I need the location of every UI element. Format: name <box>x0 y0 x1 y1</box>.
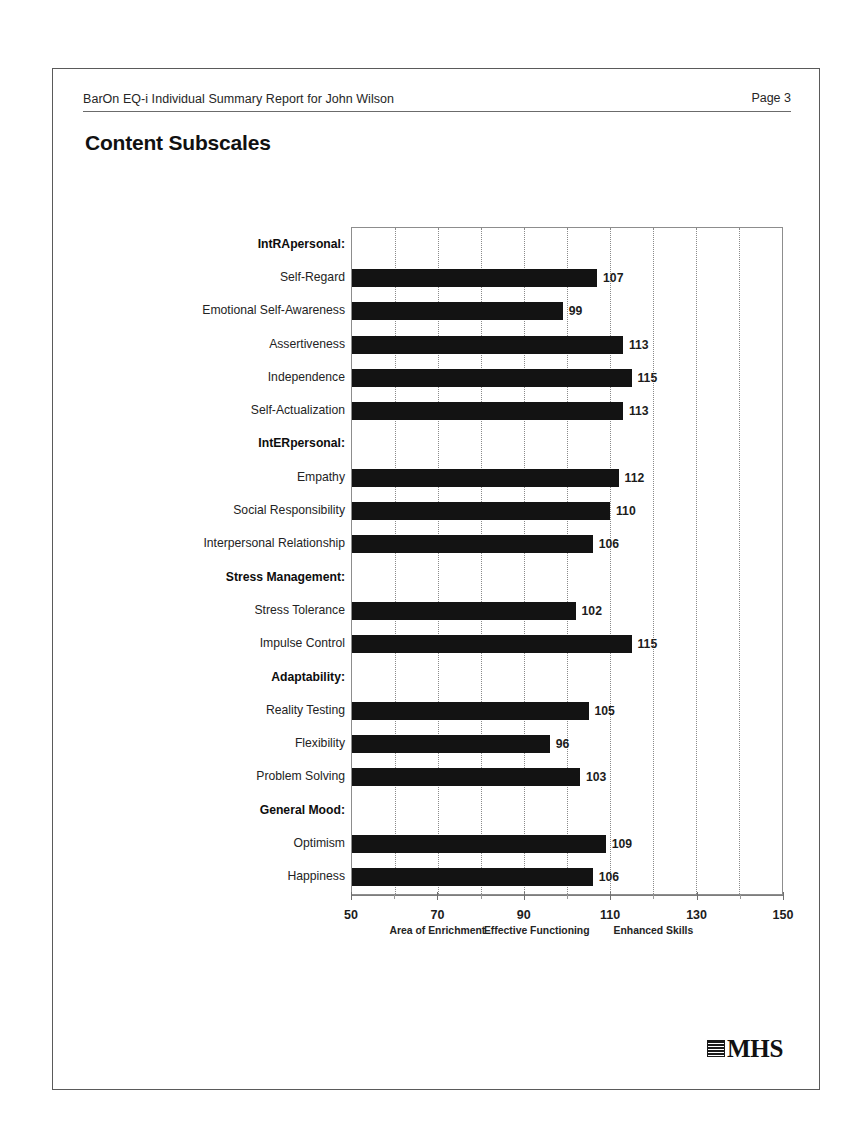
category-label: Problem Solving <box>93 760 351 793</box>
axis-tick-label: 90 <box>517 908 531 922</box>
chart-row: 110 <box>352 494 782 527</box>
axis-zone-label: Enhanced Skills <box>614 925 694 936</box>
category-group-label: Adaptability: <box>93 660 351 693</box>
bar-value-label: 106 <box>599 537 619 551</box>
page-number-label: Page 3 <box>751 91 791 106</box>
bar: 106 <box>352 868 593 886</box>
chart-row: 115 <box>352 628 782 661</box>
chart-row: 96 <box>352 727 782 760</box>
axis-tick-minor <box>653 895 654 899</box>
mhs-logo-mark-icon <box>707 1040 725 1057</box>
bar-value-label: 115 <box>638 637 658 651</box>
axis-zone-label: Effective Functioning <box>484 925 590 936</box>
category-label: Optimism <box>93 826 351 859</box>
bar: 113 <box>352 402 623 420</box>
mhs-logo: MHS <box>707 1036 783 1061</box>
bar: 105 <box>352 702 589 720</box>
page-running-header: BarOn EQ-i Individual Summary Report for… <box>83 91 791 112</box>
chart-row <box>352 428 782 461</box>
bar: 110 <box>352 502 610 520</box>
category-group-label: IntRApersonal: <box>93 227 351 260</box>
x-axis-line <box>351 895 783 905</box>
chart-row: 113 <box>352 328 782 361</box>
bar: 103 <box>352 768 580 786</box>
category-label: Empathy <box>93 460 351 493</box>
axis-tick-minor <box>481 895 482 899</box>
axis-tick-major <box>783 892 784 900</box>
bar-value-label: 113 <box>629 404 649 418</box>
axis-tick-label: 50 <box>344 908 358 922</box>
chart-row: 106 <box>352 528 782 561</box>
plot-area: 1079911311511311211010610211510596103109… <box>351 227 783 895</box>
bar: 96 <box>352 735 550 753</box>
category-group-label: IntERpersonal: <box>93 427 351 460</box>
bar-value-label: 96 <box>556 737 570 751</box>
bar-value-label: 99 <box>569 304 583 318</box>
bar-value-label: 115 <box>638 371 658 385</box>
chart-row: 107 <box>352 261 782 294</box>
axis-tick-label: 130 <box>686 908 707 922</box>
bar: 115 <box>352 635 632 653</box>
bar-value-label: 105 <box>595 704 615 718</box>
chart-body: IntRApersonal:Self-RegardEmotional Self-… <box>93 227 783 895</box>
x-axis-zone-labels: Area of EnrichmentEffective FunctioningE… <box>351 925 783 943</box>
chart-row: 106 <box>352 861 782 894</box>
bar-value-label: 106 <box>599 870 619 884</box>
bar-value-label: 102 <box>582 604 602 618</box>
bar: 109 <box>352 835 606 853</box>
bar-value-label: 110 <box>616 504 636 518</box>
bar: 115 <box>352 369 632 387</box>
chart-row: 112 <box>352 461 782 494</box>
category-label: Self-Regard <box>93 260 351 293</box>
category-label: Interpersonal Relationship <box>93 527 351 560</box>
category-group-label: Stress Management: <box>93 560 351 593</box>
axis-tick-minor <box>740 895 741 899</box>
category-label: Stress Tolerance <box>93 593 351 626</box>
bar-value-label: 107 <box>603 271 623 285</box>
chart-row: 113 <box>352 394 782 427</box>
axis-tick-label: 150 <box>773 908 794 922</box>
bar-value-label: 103 <box>586 770 606 784</box>
chart-row <box>352 228 782 261</box>
chart-row: 102 <box>352 594 782 627</box>
axis-tick-label: 110 <box>600 908 620 922</box>
bar-rows: 1079911311511311211010610211510596103109… <box>352 228 782 894</box>
chart-row <box>352 561 782 594</box>
bar: 112 <box>352 469 619 487</box>
category-label: Happiness <box>93 860 351 893</box>
mhs-logo-text: MHS <box>727 1036 783 1061</box>
chart-row <box>352 794 782 827</box>
bar: 102 <box>352 602 576 620</box>
chart-row: 103 <box>352 761 782 794</box>
bar: 99 <box>352 302 563 320</box>
category-axis-labels: IntRApersonal:Self-RegardEmotional Self-… <box>93 227 351 895</box>
category-label: Independence <box>93 360 351 393</box>
category-label: Flexibility <box>93 726 351 759</box>
content-subscales-chart: IntRApersonal:Self-RegardEmotional Self-… <box>93 227 783 943</box>
category-label: Reality Testing <box>93 693 351 726</box>
axis-tick-minor <box>567 895 568 899</box>
report-header-title: BarOn EQ-i Individual Summary Report for… <box>83 92 394 106</box>
axis-zone-label: Area of Enrichment <box>389 925 485 936</box>
bar-value-label: 113 <box>629 338 649 352</box>
page-title: Content Subscales <box>85 131 271 155</box>
category-group-label: General Mood: <box>93 793 351 826</box>
axis-tick-minor <box>394 895 395 899</box>
bar: 107 <box>352 269 597 287</box>
x-axis-tick-labels: 507090110130150 <box>351 905 783 925</box>
category-label: Impulse Control <box>93 627 351 660</box>
bar-value-label: 109 <box>612 837 632 851</box>
chart-row: 99 <box>352 295 782 328</box>
report-page-sheet: BarOn EQ-i Individual Summary Report for… <box>52 68 820 1090</box>
category-label: Self-Actualization <box>93 393 351 426</box>
chart-row <box>352 661 782 694</box>
chart-row: 115 <box>352 361 782 394</box>
category-label: Social Responsibility <box>93 493 351 526</box>
axis-tick-label: 70 <box>430 908 444 922</box>
chart-row: 105 <box>352 694 782 727</box>
bar: 106 <box>352 535 593 553</box>
bar-value-label: 112 <box>625 471 645 485</box>
category-label: Emotional Self-Awareness <box>93 294 351 327</box>
category-label: Assertiveness <box>93 327 351 360</box>
chart-row: 109 <box>352 827 782 860</box>
